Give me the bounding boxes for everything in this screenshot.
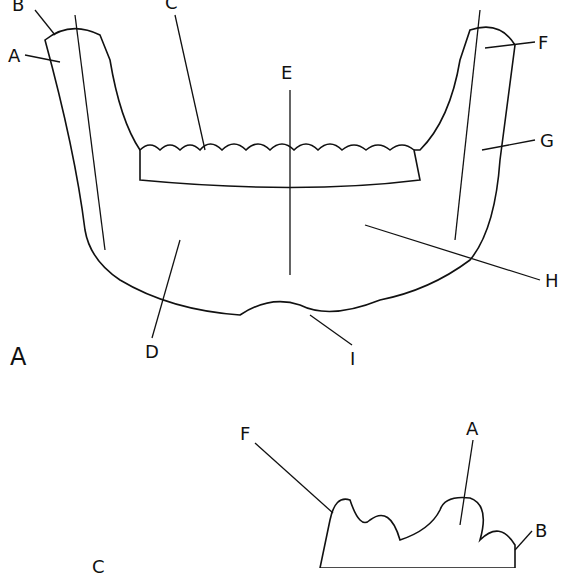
label-h-top: H	[545, 272, 559, 290]
label-g-top: G	[540, 132, 554, 150]
label-b-top: B	[12, 0, 24, 14]
label-i-top: I	[350, 350, 355, 368]
label-f-top: F	[538, 34, 548, 52]
label-b-bottom: B	[535, 522, 547, 540]
label-a-bottom: A	[466, 420, 478, 438]
label-c-top: C	[165, 0, 178, 12]
label-f-bottom: F	[240, 425, 250, 443]
label-a-top: A	[8, 47, 20, 65]
panel-label-a: A	[10, 345, 26, 369]
label-e-top: E	[281, 64, 292, 82]
label-d-top: D	[145, 343, 159, 361]
label-c-bottom: C	[92, 558, 105, 576]
